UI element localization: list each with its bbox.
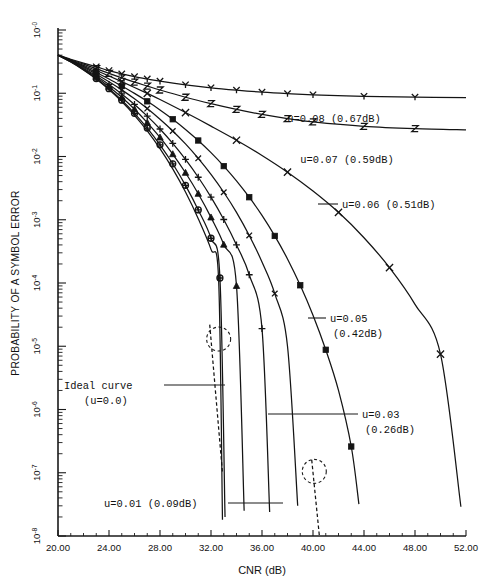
marker-u-0-04 — [246, 233, 252, 239]
y-tick-label: 10-2 — [31, 148, 42, 165]
marker-u-0-04 — [221, 189, 227, 195]
marker-u-0-03 — [259, 325, 266, 332]
marker-u-0-06 — [386, 264, 393, 271]
data-markers — [93, 64, 444, 450]
marker-u-0-02 — [233, 282, 239, 288]
annotation-u005-line2: (0.42dB) — [333, 328, 383, 340]
y-tick-label: 10-4 — [31, 274, 42, 291]
marker-u-0-03 — [233, 242, 240, 249]
annotation-u003-line1: u=0.03 — [362, 409, 399, 421]
annotation-u006: u=0.06 (0.51dB) — [342, 199, 436, 211]
curve-dashed-tail-right — [312, 460, 320, 536]
axes-frame — [58, 28, 466, 536]
marker-u-0-03 — [220, 216, 227, 223]
annotation-ideal-curve-line2: (u=0.0) — [84, 395, 128, 407]
marker-u-0-03 — [208, 194, 215, 201]
marker-u-0-05 — [298, 283, 303, 288]
marker-u-0-05 — [323, 347, 328, 352]
x-axis-tick-labels: 20.0024.0028.0032.0036.0040.0044.0048.00… — [46, 542, 478, 553]
data-curves — [58, 55, 466, 536]
annotation-u007: u=0.07 (0.59dB) — [300, 154, 394, 166]
chart-figure: 10-010-110-210-310-410-510-610-710-8 20.… — [0, 0, 488, 584]
x-tick-label: 32.00 — [199, 542, 223, 553]
y-axis-tick-labels: 10-010-110-210-310-410-510-610-710-8 — [31, 21, 42, 544]
marker-u-0-05 — [221, 163, 226, 168]
annotation-u005-line1: u=0.05 — [330, 313, 367, 325]
marker-u-0-03 — [246, 271, 253, 278]
svg-text:10-2: 10-2 — [31, 148, 42, 165]
y-tick-label: 10-0 — [31, 21, 42, 38]
marker-u-0-05 — [247, 195, 252, 200]
svg-text:10-1: 10-1 — [31, 85, 42, 102]
annotation-u003-line2: (0.26dB) — [365, 424, 415, 436]
marker-u-0-05 — [145, 99, 150, 104]
highlight-left — [207, 327, 231, 351]
marker-u-0-04 — [144, 106, 150, 112]
x-tick-label: 52.00 — [454, 542, 478, 553]
svg-text:10-3: 10-3 — [31, 211, 42, 228]
marker-u-0-06 — [182, 109, 189, 116]
annotation-u008: u=0.08 (0.67dB) — [287, 113, 381, 125]
marker-u-0-05 — [196, 138, 201, 143]
x-axis-ticks — [58, 530, 466, 536]
marker-u-0-02 — [195, 190, 201, 196]
marker-u-0-07 — [144, 83, 150, 89]
svg-text:10-7: 10-7 — [31, 464, 42, 481]
marker-u-0-02 — [208, 214, 214, 220]
y-tick-label: 10-8 — [31, 527, 42, 544]
marker-u-0-02 — [221, 241, 227, 247]
y-tick-label: 10-5 — [31, 338, 42, 355]
symbol-error-probability-chart: 10-010-110-210-310-410-510-610-710-8 20.… — [0, 0, 488, 584]
marker-u-0-05 — [272, 233, 277, 238]
marker-u-0-05 — [170, 117, 175, 122]
x-tick-label: 44.00 — [352, 542, 376, 553]
x-tick-label: 28.00 — [148, 542, 172, 553]
annotation-u001: u=0.01 (0.09dB) — [104, 498, 198, 510]
marker-u-0-07 — [131, 79, 137, 85]
svg-text:10-0: 10-0 — [31, 21, 42, 38]
annotation-leader-lines — [164, 204, 358, 503]
y-axis-title: PROBABILITY OF A SYMBOL ERROR — [10, 190, 21, 375]
y-tick-label: 10-3 — [31, 211, 42, 228]
x-tick-label: 48.00 — [403, 542, 427, 553]
marker-u-0-06 — [233, 137, 240, 144]
x-tick-label: 36.00 — [250, 542, 274, 553]
svg-text:10-8: 10-8 — [31, 527, 42, 544]
curve-u-0-02 — [58, 55, 244, 511]
x-tick-label: 24.00 — [97, 542, 121, 553]
marker-u-0-04 — [195, 156, 201, 162]
curve-ideal-curve — [58, 55, 222, 520]
svg-text:10-4: 10-4 — [31, 274, 42, 291]
y-tick-label: 10-7 — [31, 464, 42, 481]
x-tick-label: 20.00 — [46, 542, 70, 553]
svg-text:10-6: 10-6 — [31, 401, 42, 418]
marker-u-0-04 — [170, 128, 176, 134]
marker-u-0-05 — [349, 444, 354, 449]
marker-u-0-06 — [284, 169, 291, 176]
svg-text:10-5: 10-5 — [31, 338, 42, 355]
annotation-ideal-curve-line1: Ideal curve — [64, 380, 133, 392]
y-axis-ticks — [58, 30, 66, 536]
y-tick-label: 10-6 — [31, 401, 42, 418]
marker-u-0-06 — [144, 90, 151, 97]
curve-u-0-06 — [58, 55, 461, 507]
y-tick-label: 10-1 — [31, 85, 42, 102]
x-axis-title: CNR (dB) — [238, 564, 286, 576]
curve-u-0-03 — [58, 55, 270, 512]
x-tick-label: 40.00 — [301, 542, 325, 553]
